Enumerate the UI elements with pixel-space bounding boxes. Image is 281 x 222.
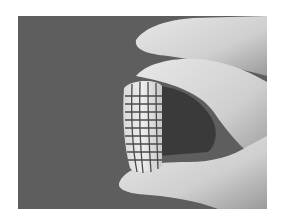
grid-lines [125, 82, 162, 173]
photo [18, 16, 267, 209]
hand-holding-grid-illustration [18, 16, 267, 209]
